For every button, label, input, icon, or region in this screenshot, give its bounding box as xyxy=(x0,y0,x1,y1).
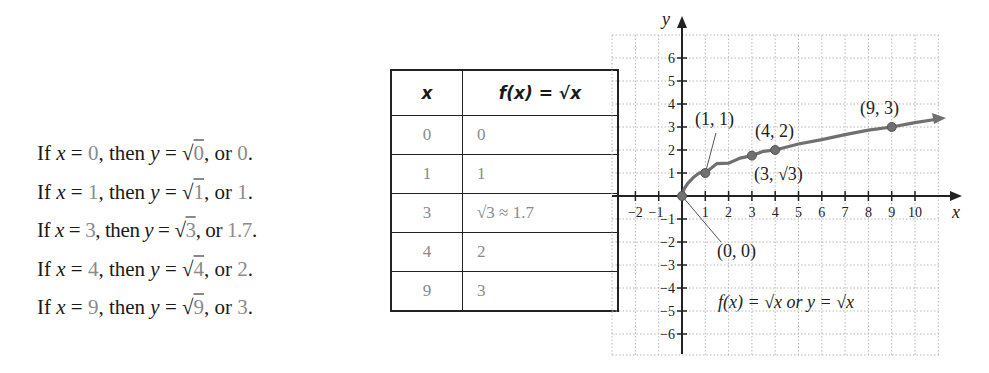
x-tick-label: 6 xyxy=(818,205,825,220)
point-4-2 xyxy=(771,146,780,155)
x-tick-label: 4 xyxy=(772,205,779,220)
y-axis-label: y xyxy=(660,9,670,29)
y-tick-label: 5 xyxy=(668,74,675,89)
y-tick-label: −2 xyxy=(660,235,675,250)
y-tick-label: 6 xyxy=(668,51,675,66)
point-0-0 xyxy=(678,192,687,201)
function-equation: f(x) = √x or y = √x xyxy=(718,292,854,313)
y-tick-label: −1 xyxy=(660,212,675,227)
label-1-1: (1, 1) xyxy=(695,109,734,130)
x-tick-label: 10 xyxy=(908,205,922,220)
x-tick-label: 1 xyxy=(702,205,709,220)
x-tick-label: 8 xyxy=(865,205,872,220)
point-9-3 xyxy=(887,123,896,132)
x-tick-label: −2 xyxy=(628,205,643,220)
x-tick-label: 2 xyxy=(725,205,732,220)
x-tick-label: 5 xyxy=(795,205,802,220)
label-0-0: (0, 0) xyxy=(717,241,756,262)
x-tick-label: 9 xyxy=(888,205,895,220)
x-axis-arrow-icon xyxy=(950,191,962,201)
x-tick-label: 7 xyxy=(842,205,849,220)
y-tick-label: −6 xyxy=(660,327,675,342)
y-tick-label: 3 xyxy=(668,120,675,135)
point-1-1 xyxy=(701,169,710,178)
label-3-sqrt3: (3, √3) xyxy=(754,164,803,185)
sqrt-curve xyxy=(682,120,935,197)
point-3-sqrt3 xyxy=(747,151,756,160)
label-4-2: (4, 2) xyxy=(755,121,794,142)
label-9-3: (9, 3) xyxy=(860,98,899,119)
y-axis-arrow-icon xyxy=(677,16,687,28)
y-tick-label: 4 xyxy=(668,97,675,112)
y-tick-label: 1 xyxy=(668,166,675,181)
y-tick-label: 2 xyxy=(668,143,675,158)
sqrt-graph: x y −2 −1 1 2 3 4 5 6 7 8 9 10 xyxy=(0,0,989,373)
y-tick-label: −3 xyxy=(660,258,675,273)
y-tick-label: −4 xyxy=(660,281,675,296)
x-tick-label: 3 xyxy=(748,205,755,220)
curve-arrow-icon xyxy=(932,113,946,124)
y-tick-label: −5 xyxy=(660,304,675,319)
x-axis-label: x xyxy=(951,202,960,222)
leader-line xyxy=(682,196,721,242)
